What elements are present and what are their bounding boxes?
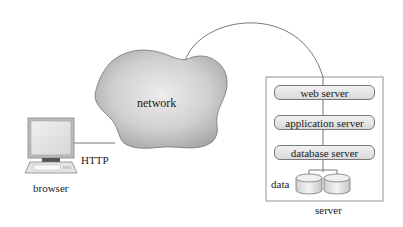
web-architecture-diagram: network HTTP browser web server applicat… (0, 0, 403, 227)
network-label: network (137, 97, 176, 109)
data-disk-2 (324, 174, 350, 194)
data-label: data (271, 179, 289, 190)
data-disk-1 (296, 174, 322, 194)
server-label: server (315, 205, 342, 216)
browser-label: browser (33, 183, 68, 194)
http-label: HTTP (81, 155, 109, 166)
application-server-tier: application server (274, 115, 375, 130)
web-server-tier: web server (274, 85, 375, 100)
database-server-tier: database server (274, 145, 375, 160)
computer-icon (25, 118, 77, 173)
